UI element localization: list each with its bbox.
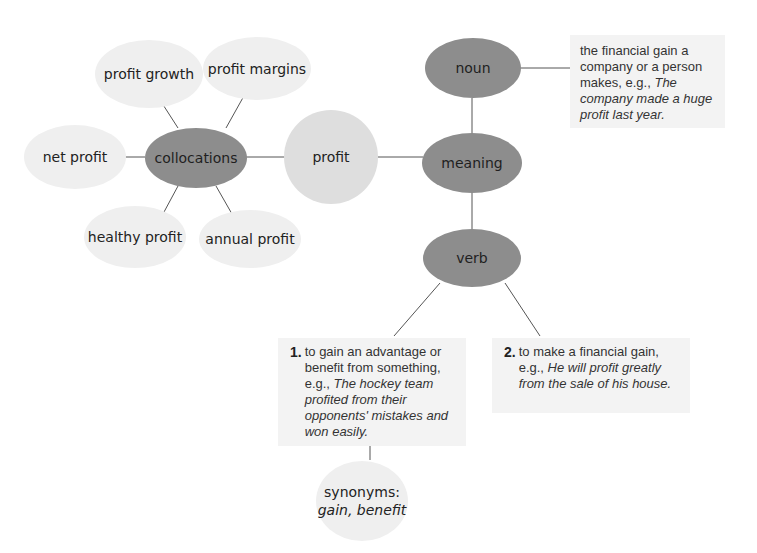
collocation-label: healthy profit (88, 229, 182, 245)
collocation-label: net profit (43, 149, 108, 165)
noun-definition-box: the financial gain a company or a person… (570, 35, 725, 128)
collocations-label: collocations (155, 150, 238, 166)
collocation-profit-growth: profit growth (95, 40, 203, 108)
sense-number: 2. (504, 344, 516, 392)
collocation-healthy-profit: healthy profit (84, 206, 186, 268)
verb-node: verb (423, 229, 521, 287)
meaning-label: meaning (441, 155, 502, 171)
collocation-label: annual profit (205, 231, 294, 247)
collocation-label: profit margins (208, 61, 306, 77)
collocation-net-profit: net profit (24, 125, 126, 189)
center-label: profit (312, 149, 349, 165)
collocation-label: profit growth (104, 66, 194, 82)
meaning-node: meaning (422, 133, 522, 193)
noun-node: noun (425, 38, 521, 98)
synonyms-node: synonyms: gain, benefit (316, 461, 408, 541)
synonyms-values: gain, benefit (318, 501, 407, 519)
noun-label: noun (455, 60, 490, 76)
collocation-annual-profit: annual profit (199, 210, 301, 268)
center-node-profit: profit (284, 110, 378, 204)
collocations-node: collocations (145, 128, 247, 188)
verb-label: verb (456, 250, 488, 266)
verb-sense-2-box: 2. to make a financial gain, e.g., He wi… (492, 338, 690, 413)
synonyms-label: synonyms: (324, 483, 400, 501)
sense-number: 1. (290, 344, 302, 440)
collocation-profit-margins: profit margins (203, 37, 311, 100)
noun-definition: the financial gain a company or a person… (580, 43, 702, 90)
verb-sense-1-box: 1. to gain an advantage or benefit from … (278, 338, 466, 446)
